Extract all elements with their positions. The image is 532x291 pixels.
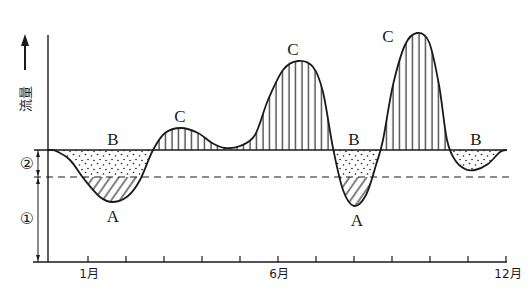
hydrograph-diagram: 流量 ② ① B C C B A A C B 1月 6月 12月 — [0, 0, 532, 291]
dimension-line — [36, 150, 40, 262]
region-label-c2: C — [287, 40, 298, 59]
region-label-b1: B — [107, 130, 118, 149]
y-axis-arrow-icon — [21, 34, 29, 70]
region-label-c3: C — [382, 27, 393, 46]
x-axis-label-jun: 6月 — [269, 267, 289, 281]
region-label-b3: B — [470, 130, 481, 149]
y-axis-label: 流量 — [18, 86, 33, 112]
x-axis-label-dec: 12月 — [494, 267, 521, 281]
dimension-label-two: ② — [20, 154, 34, 173]
region-label-a2: A — [351, 211, 364, 230]
x-axis-ticks — [88, 256, 506, 262]
x-axis-label-jan: 1月 — [79, 267, 99, 281]
region-label-b2: B — [348, 130, 359, 149]
region-label-a1: A — [107, 207, 120, 226]
dimension-label-one: ① — [20, 209, 34, 228]
region-label-c1: C — [174, 107, 185, 126]
